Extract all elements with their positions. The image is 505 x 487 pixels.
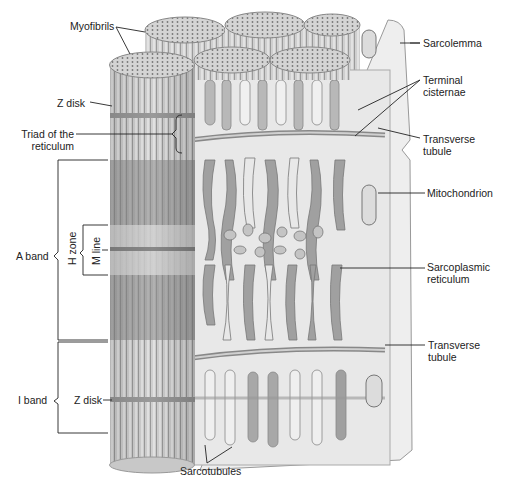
label-terminal-cisternae-1: Terminal [423, 74, 463, 86]
label-transverse-tubule-bottom-2: tubule [428, 351, 457, 363]
main-myofibril [110, 52, 196, 473]
label-mitochondrion: Mitochondrion [427, 187, 493, 199]
label-transverse-tubule-top-2: tubule [423, 145, 452, 157]
label-terminal-cisternae-2: cisternae [423, 86, 466, 98]
label-a-band: A band [16, 250, 49, 262]
label-transverse-tubule-top-1: Transverse [423, 133, 475, 145]
label-h-zone: H zone [66, 232, 78, 265]
label-triad-1: Triad of the [20, 128, 74, 140]
label-myofibrils: Myofibrils [70, 20, 114, 32]
label-triad-2: reticulum [20, 140, 74, 152]
label-z-disk-top: Z disk [57, 97, 85, 109]
label-sarcoplasmic-reticulum-2: reticulum [427, 273, 470, 285]
label-transverse-tubule-bottom-1: Transverse [428, 339, 480, 351]
label-i-band: I band [18, 394, 47, 406]
label-m-line: M line [90, 237, 102, 265]
label-sarcotubules: Sarcotubules [180, 465, 241, 477]
label-z-disk-bottom: Z disk [74, 394, 102, 406]
sarcoplasmic-reticulum-region [190, 70, 390, 465]
label-sarcolemma: Sarcolemma [423, 37, 482, 49]
label-sarcoplasmic-reticulum-1: Sarcoplasmic [427, 261, 490, 273]
